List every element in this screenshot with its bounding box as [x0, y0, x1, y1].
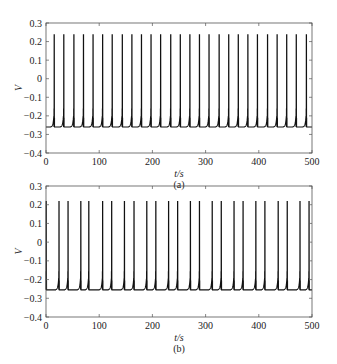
- y-tick-label: 0: [37, 237, 42, 248]
- x-axis-label: t/s: [174, 332, 184, 343]
- y-tick-label: −0.4: [24, 148, 42, 159]
- x-tick-label: 0: [44, 156, 49, 167]
- x-tick-label: 400: [251, 156, 266, 167]
- y-tick-label: −0.3: [24, 293, 42, 304]
- x-tick-label: 500: [305, 156, 320, 167]
- panel-caption: (b): [173, 343, 185, 355]
- voltage-trace: [46, 34, 312, 127]
- x-tick-label: 300: [198, 156, 213, 167]
- y-tick-label: 0.1: [30, 218, 43, 229]
- y-tick-label: 0: [37, 73, 42, 84]
- y-axis-label: V: [13, 83, 24, 91]
- chart-canvas: 01002003004005000.30.20.10−0.1−0.2−0.3−0…: [0, 0, 337, 364]
- panel-b: 01002003004005000.30.20.10−0.1−0.2−0.3−0…: [13, 181, 320, 356]
- y-tick-label: −0.1: [24, 92, 42, 103]
- plot-frame: [46, 186, 312, 317]
- y-tick-label: 0.3: [30, 18, 43, 29]
- x-tick-label: 0: [44, 320, 49, 331]
- x-tick-label: 200: [145, 320, 160, 331]
- panel-a: 01002003004005000.30.20.10−0.1−0.2−0.3−0…: [13, 18, 320, 192]
- y-tick-label: −0.2: [24, 274, 42, 285]
- x-tick-label: 500: [305, 320, 320, 331]
- x-tick-label: 400: [251, 320, 266, 331]
- x-tick-label: 200: [145, 156, 160, 167]
- y-tick-label: −0.3: [24, 129, 42, 140]
- y-axis-label: V: [13, 247, 24, 255]
- y-tick-label: −0.1: [24, 255, 42, 266]
- y-tick-label: −0.4: [24, 312, 42, 323]
- x-tick-label: 100: [92, 320, 107, 331]
- plot-frame: [46, 23, 312, 153]
- y-tick-label: −0.2: [24, 110, 42, 121]
- x-tick-label: 100: [92, 156, 107, 167]
- y-tick-label: 0.1: [30, 55, 43, 66]
- voltage-trace: [46, 201, 312, 290]
- panel-caption: (a): [173, 179, 184, 191]
- y-tick-label: 0.2: [30, 36, 43, 47]
- y-tick-label: 0.2: [30, 199, 43, 210]
- x-tick-label: 300: [198, 320, 213, 331]
- y-tick-label: 0.3: [30, 181, 43, 192]
- x-axis-label: t/s: [174, 168, 184, 179]
